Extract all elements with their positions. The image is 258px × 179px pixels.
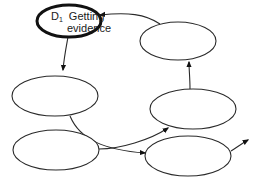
node-left-middle — [12, 76, 98, 116]
node-top-right — [140, 22, 216, 60]
edge-d1-to-n3 — [63, 37, 68, 70]
node-right-middle — [150, 89, 236, 129]
edge-n6-to-exit — [231, 140, 248, 151]
node-d1-getting-evidence: D1Getting evidence — [37, 5, 111, 37]
node-d1-label-line2: evidence — [67, 22, 111, 34]
node-right-bottom — [145, 136, 231, 176]
edge-n4-to-n2 — [189, 62, 190, 89]
node-left-bottom — [13, 130, 99, 170]
cycle-diagram: D1Getting evidence — [0, 0, 258, 179]
